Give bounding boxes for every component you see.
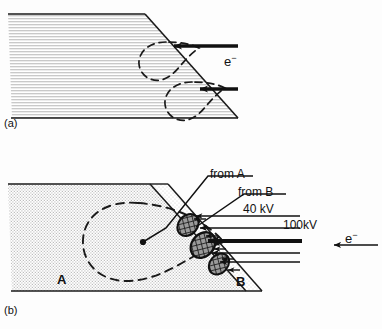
beam-40kv-label: 40 kV [243,203,274,215]
electron-label-b-superscript: − [352,230,357,240]
callout-from-b-label: from B [238,186,273,198]
figure-canvas: (a) (b) A B e− e− from A from B 40 kV 10… [0,0,382,329]
specimen-body-a [8,14,238,118]
electron-label-panel-a: e− [224,54,237,68]
electron-label-a-superscript: − [231,53,236,63]
panel-b-label: (b) [4,305,17,316]
region-a-label: A [57,273,66,286]
electron-label-panel-b: e− [345,231,358,245]
callout-from-a-label: from A [210,168,245,180]
panel-a-label: (a) [4,118,17,129]
beam-100kv-label: 100kV [283,219,317,231]
panel-a-group [8,14,238,120]
region-b-label: B [236,275,245,288]
leader-from-a-dot [140,239,146,245]
